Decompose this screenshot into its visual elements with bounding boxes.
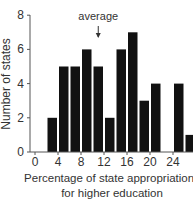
x-tick-label: 4 [55, 155, 62, 169]
average-annotation-label: average [78, 10, 118, 22]
bar-4-6 [59, 67, 69, 153]
bar-2-4 [48, 118, 58, 152]
x-tick-label: 16 [120, 155, 134, 169]
bar-10-12 [94, 67, 104, 153]
bar-6-8 [71, 67, 81, 153]
y-axis-label: Number of states [0, 38, 13, 129]
x-ticks: 04812162024 [32, 152, 180, 169]
x-tick-label: 12 [97, 155, 111, 169]
y-ticks: 02468 [17, 8, 30, 159]
x-tick-label: 8 [78, 155, 85, 169]
y-tick-label: 0 [17, 145, 24, 159]
bar-8-10 [82, 49, 92, 152]
bars [48, 32, 194, 152]
y-tick-label: 2 [17, 111, 24, 125]
x-axis-label-line1: Percentage of state appropriations [24, 172, 193, 184]
x-tick-label: 24 [166, 155, 180, 169]
average-arrow-icon [96, 26, 101, 38]
y-tick-label: 6 [17, 42, 24, 56]
y-tick-label: 4 [17, 77, 24, 91]
bar-14-16 [117, 49, 127, 152]
bar-24-26 [174, 84, 184, 152]
bar-16-18 [128, 32, 138, 152]
bar-18-20 [140, 101, 150, 152]
y-tick-label: 8 [17, 8, 24, 22]
x-tick-label: 0 [32, 155, 39, 169]
x-tick-label: 20 [143, 155, 157, 169]
bar-12-14 [105, 118, 115, 152]
bar-20-22 [151, 84, 161, 152]
histogram-chart: 02468 04812162024 Number of states Perce… [0, 0, 193, 199]
bar-26-28 [186, 135, 194, 152]
x-axis-label-line2: for higher education [61, 187, 163, 199]
